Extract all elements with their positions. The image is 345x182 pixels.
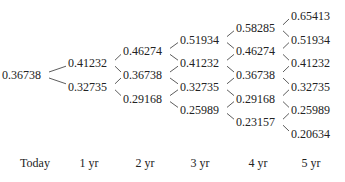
tree-edge (115, 66, 121, 72)
tree-edge (49, 66, 66, 72)
node-c4-r2: 0.36738 (236, 69, 275, 81)
node-c3-r2: 0.32735 (180, 81, 219, 93)
tree-edge (227, 66, 234, 72)
binomial-tree-diagram: 0.36738 0.41232 0.32735 0.46274 0.36738 … (0, 0, 345, 182)
node-c5-r2: 0.41232 (291, 57, 330, 69)
timeline-label-5yr: 5 yr (302, 157, 321, 169)
tree-edge (227, 113, 234, 119)
tree-edge (283, 54, 289, 60)
node-c2-r2: 0.29168 (123, 93, 162, 105)
tree-edge (170, 78, 178, 84)
tree-edge (227, 90, 234, 96)
tree-edge (170, 43, 178, 49)
node-c4-r1: 0.46274 (236, 45, 275, 57)
node-c3-r0: 0.51934 (180, 34, 219, 46)
node-c5-r4: 0.25989 (291, 104, 330, 116)
tree-edge (170, 102, 178, 108)
tree-edge (49, 78, 66, 84)
node-c5-r1: 0.51934 (291, 34, 330, 46)
timeline-label-3yr: 3 yr (191, 157, 210, 169)
tree-edge (283, 125, 289, 131)
timeline-label-2yr: 2 yr (136, 157, 155, 169)
node-c5-r3: 0.32735 (291, 81, 330, 93)
node-c0-r0: 0.36738 (2, 69, 41, 81)
node-c3-r3: 0.25989 (180, 104, 219, 116)
node-c3-r1: 0.41232 (180, 57, 219, 69)
node-c5-r0: 0.65413 (291, 10, 330, 22)
tree-edge (227, 31, 234, 37)
node-c4-r3: 0.29168 (236, 93, 275, 105)
node-c4-r0: 0.58285 (236, 22, 275, 34)
tree-edge (283, 43, 289, 49)
tree-edge (283, 66, 289, 72)
node-c2-r1: 0.36738 (123, 69, 162, 81)
timeline-label-1yr: 1 yr (80, 157, 99, 169)
tree-edge (115, 90, 121, 96)
timeline-label-today: Today (20, 157, 50, 169)
tree-edge (170, 54, 178, 60)
tree-edge (115, 78, 121, 84)
tree-edge (283, 102, 289, 108)
tree-edge (170, 66, 178, 72)
node-c1-r1: 0.32735 (68, 81, 107, 93)
tree-edge (283, 90, 289, 96)
tree-edge (283, 78, 289, 84)
node-c4-r4: 0.23157 (236, 116, 275, 128)
tree-edge (227, 54, 234, 60)
node-c5-r5: 0.20634 (291, 128, 330, 140)
tree-edge (283, 19, 289, 25)
tree-edge (170, 90, 178, 96)
tree-edge (227, 102, 234, 108)
tree-edge (283, 31, 289, 37)
tree-edge (283, 113, 289, 119)
tree-edge (227, 43, 234, 49)
node-c2-r0: 0.46274 (123, 45, 162, 57)
node-c1-r0: 0.41232 (68, 57, 107, 69)
tree-edge (227, 78, 234, 84)
tree-edge (115, 54, 121, 60)
timeline-label-4yr: 4 yr (249, 157, 268, 169)
